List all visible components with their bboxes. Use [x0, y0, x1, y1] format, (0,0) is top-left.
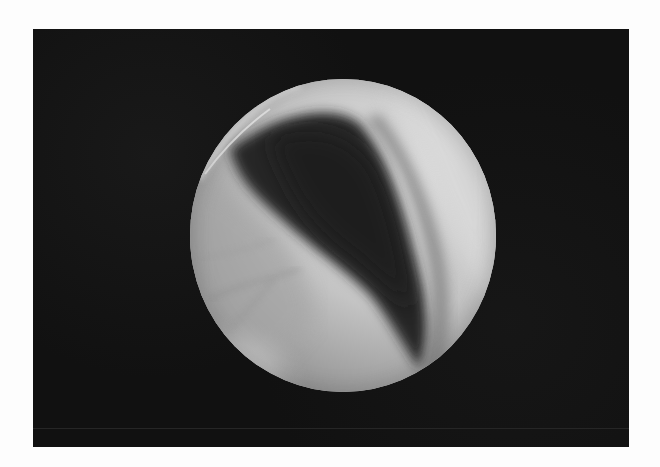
frame-scanline	[33, 428, 629, 429]
image-frame	[33, 29, 629, 447]
figure-page	[0, 0, 660, 467]
tissue-illustration	[190, 79, 496, 392]
endoscopic-circular-view	[190, 79, 496, 392]
